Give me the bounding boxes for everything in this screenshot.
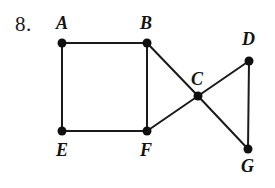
vertex-label-b: B [140, 14, 152, 32]
graph-edge-dg [248, 61, 249, 149]
graph-edge-cf [147, 96, 198, 131]
graph-vertex-b [143, 39, 152, 48]
vertex-label-d: D [242, 30, 255, 48]
graph-vertex-d [245, 57, 254, 66]
vertex-label-a: A [56, 14, 68, 32]
graph-figure: 8. ABCDEFG [0, 0, 275, 188]
graph-diagram [0, 0, 275, 188]
graph-edge-cg [198, 96, 248, 149]
graph-vertex-g [244, 145, 253, 154]
graph-vertex-f [143, 127, 152, 136]
graph-vertex-c [194, 92, 203, 101]
vertex-label-f: F [140, 141, 152, 159]
vertex-label-c: C [191, 70, 203, 88]
graph-edge-cd [198, 61, 249, 96]
vertex-label-g: G [241, 157, 254, 175]
graph-vertex-e [58, 127, 67, 136]
graph-vertices [58, 39, 254, 154]
graph-edges [62, 43, 249, 149]
vertex-label-e: E [56, 141, 68, 159]
graph-vertex-a [58, 39, 67, 48]
